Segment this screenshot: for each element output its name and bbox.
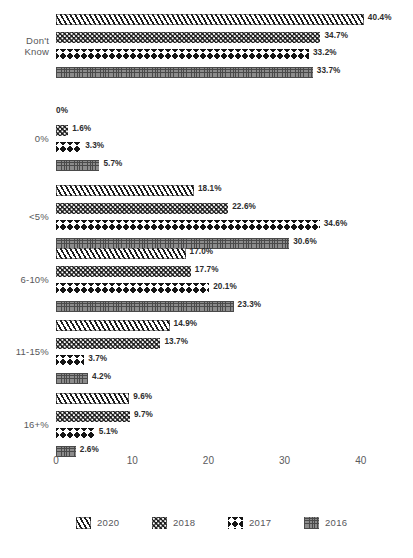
bar-value-label: 5.1% bbox=[99, 427, 118, 436]
legend-swatch-2017 bbox=[228, 517, 243, 529]
legend-swatch-2016 bbox=[304, 517, 319, 529]
bar-2017-1115 bbox=[56, 355, 84, 366]
bar-2018-dontknow bbox=[56, 32, 320, 43]
bar-value-label: 3.3% bbox=[85, 141, 104, 150]
bar-row: 0% bbox=[56, 107, 413, 118]
chart-legend: 2020201820172016 bbox=[0, 516, 413, 540]
bar-row: 5.1% bbox=[56, 428, 413, 439]
bar-row: 1.6% bbox=[56, 125, 413, 136]
bar-row: 40.4% bbox=[56, 14, 413, 25]
bar-value-label: 14.9% bbox=[174, 319, 198, 328]
bar-value-label: 1.6% bbox=[72, 124, 91, 133]
bar-row: 13.7% bbox=[56, 338, 413, 349]
legend-label: 2018 bbox=[173, 517, 195, 528]
bar-2017-0 bbox=[56, 142, 81, 153]
bar-value-label: 2.6% bbox=[80, 445, 99, 454]
bar-2020-dontknow bbox=[56, 14, 364, 25]
bar-value-label: 9.7% bbox=[134, 410, 153, 419]
bar-row: 5.7% bbox=[56, 160, 413, 171]
bar-row: 17.7% bbox=[56, 266, 413, 277]
bar-value-label: 34.6% bbox=[324, 219, 348, 228]
x-axis-tick: 10 bbox=[112, 455, 152, 466]
bar-chart: Don'tKnow40.4%34.7%33.2%33.7%0%0%1.6%3.3… bbox=[0, 0, 413, 558]
bar-value-label: 33.2% bbox=[313, 48, 337, 57]
bar-2016-dontknow bbox=[56, 67, 313, 78]
category-group: 0%0%1.6%3.3%5.7% bbox=[0, 107, 413, 177]
category-group: 16+%9.6%9.7%5.1%2.6% bbox=[0, 393, 413, 463]
category-label: <5% bbox=[0, 211, 49, 222]
x-axis-tick: 0 bbox=[36, 455, 76, 466]
bar-value-label: 22.6% bbox=[232, 202, 256, 211]
bar-2017-16+ bbox=[56, 428, 95, 439]
bar-row: 18.1% bbox=[56, 185, 413, 196]
bar-row: 9.6% bbox=[56, 393, 413, 404]
legend-label: 2020 bbox=[97, 517, 119, 528]
bar-row: 22.6% bbox=[56, 203, 413, 214]
bar-value-label: 18.1% bbox=[198, 184, 222, 193]
bar-value-label: 30.6% bbox=[293, 237, 317, 246]
bar-2020-1115 bbox=[56, 320, 170, 331]
bar-2017-dontknow bbox=[56, 49, 309, 60]
bar-2018-5 bbox=[56, 203, 228, 214]
x-axis-tick: 20 bbox=[188, 455, 228, 466]
bar-2018-1115 bbox=[56, 338, 160, 349]
bar-row: 34.7% bbox=[56, 32, 413, 43]
bar-value-label: 40.4% bbox=[368, 13, 392, 22]
bar-2020-16+ bbox=[56, 393, 129, 404]
bar-row: 17.0% bbox=[56, 248, 413, 259]
category-group: 11-15%14.9%13.7%3.7%4.2% bbox=[0, 320, 413, 390]
bar-value-label: 17.7% bbox=[195, 265, 219, 274]
bar-row: 34.6% bbox=[56, 220, 413, 231]
bar-row: 23.3% bbox=[56, 301, 413, 312]
bar-2017-5 bbox=[56, 220, 320, 231]
category-group: 6-10%17.0%17.7%20.1%23.3% bbox=[0, 248, 413, 318]
bar-row: 20.1% bbox=[56, 283, 413, 294]
bar-value-label: 4.2% bbox=[92, 372, 111, 381]
category-label: 16+% bbox=[0, 419, 49, 430]
bar-2016-610 bbox=[56, 301, 234, 312]
legend-swatch-2020 bbox=[76, 517, 91, 529]
x-axis-tick: 30 bbox=[265, 455, 305, 466]
bar-2016-0 bbox=[56, 160, 99, 171]
bar-row: 33.7% bbox=[56, 67, 413, 78]
legend-swatch-2018 bbox=[152, 517, 167, 529]
bar-2018-16+ bbox=[56, 411, 130, 422]
bar-row: 33.2% bbox=[56, 49, 413, 60]
bar-value-label: 9.6% bbox=[133, 392, 152, 401]
bar-row: 9.7% bbox=[56, 411, 413, 422]
bar-value-label: 17.0% bbox=[190, 247, 214, 256]
bar-row: 3.3% bbox=[56, 142, 413, 153]
bar-value-label: 20.1% bbox=[213, 282, 237, 291]
bar-value-label: 13.7% bbox=[164, 337, 188, 346]
bar-2018-610 bbox=[56, 266, 191, 277]
bar-value-label: 23.3% bbox=[238, 300, 262, 309]
bar-value-label: 5.7% bbox=[103, 159, 122, 168]
bar-value-label: 34.7% bbox=[324, 31, 348, 40]
bar-2020-5 bbox=[56, 185, 194, 196]
category-label: 0% bbox=[0, 133, 49, 144]
category-group: Don'tKnow40.4%34.7%33.2%33.7% bbox=[0, 14, 413, 84]
category-label: 6-10% bbox=[0, 274, 49, 285]
bar-row: 14.9% bbox=[56, 320, 413, 331]
category-group: <5%18.1%22.6%34.6%30.6% bbox=[0, 185, 413, 255]
bar-2016-1115 bbox=[56, 373, 88, 384]
bar-value-label: 33.7% bbox=[317, 66, 341, 75]
bar-value-label: 0% bbox=[56, 106, 68, 115]
bar-value-label: 3.7% bbox=[88, 354, 107, 363]
bar-2020-610 bbox=[56, 248, 186, 259]
legend-label: 2017 bbox=[249, 517, 271, 528]
x-axis-tick: 40 bbox=[341, 455, 381, 466]
bar-row: 4.2% bbox=[56, 373, 413, 384]
x-axis: 010203040 bbox=[0, 455, 413, 477]
bar-row: 3.7% bbox=[56, 355, 413, 366]
legend-label: 2016 bbox=[325, 517, 347, 528]
category-label: Don'tKnow bbox=[0, 35, 49, 57]
plot-area: Don'tKnow40.4%34.7%33.2%33.7%0%0%1.6%3.3… bbox=[0, 0, 413, 470]
category-label: 11-15% bbox=[0, 346, 49, 357]
bar-2017-610 bbox=[56, 283, 209, 294]
bar-2018-0 bbox=[56, 125, 68, 136]
